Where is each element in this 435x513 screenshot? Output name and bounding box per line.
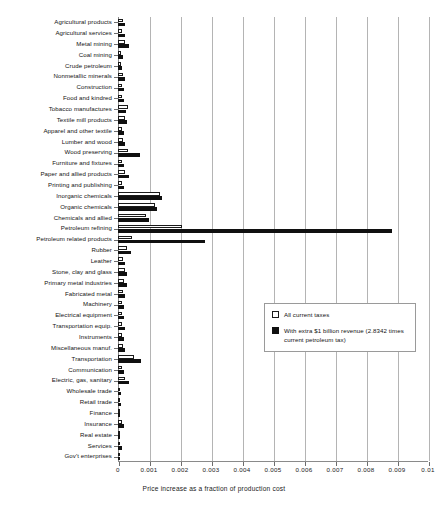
bar-all-current-taxes (118, 170, 125, 174)
x-axis-tick-label: 0.008 (357, 466, 374, 473)
category-label: Finance (0, 410, 112, 416)
bar-extra-revenue (118, 348, 125, 352)
bar-extra-revenue (118, 392, 121, 396)
bar-all-current-taxes (118, 84, 122, 88)
category-label: Fabricated metal (0, 291, 112, 297)
bar-all-current-taxes (118, 312, 122, 316)
bar-all-current-taxes (118, 214, 146, 218)
bar-all-current-taxes (118, 236, 132, 240)
x-axis-tick-label: 0.009 (388, 466, 405, 473)
category-label: Food and kindred (0, 95, 112, 101)
x-axis-tick-label: 0.005 (264, 466, 281, 473)
bar-all-current-taxes (118, 431, 120, 435)
bar-extra-revenue (118, 262, 125, 266)
category-label: Services (0, 443, 112, 449)
category-label: Retail trade (0, 399, 112, 405)
category-label: Furniture and fixtures (0, 160, 112, 166)
category-label: Textile mill products (0, 117, 112, 123)
x-axis-tick-label: 0.004 (233, 466, 250, 473)
bar-extra-revenue (118, 435, 120, 439)
bar-extra-revenue (118, 23, 125, 27)
bar-all-current-taxes (118, 355, 134, 359)
bar-all-current-taxes (118, 398, 120, 402)
bar-extra-revenue (118, 44, 129, 48)
bar-all-current-taxes (118, 409, 120, 413)
category-label: Leather (0, 258, 112, 264)
bar-all-current-taxes (118, 366, 122, 370)
category-label: Insurance (0, 421, 112, 427)
bar-extra-revenue (118, 457, 120, 461)
category-label: Agricultural products (0, 19, 112, 25)
bar-extra-revenue (118, 142, 125, 146)
category-label: Inorganic chemicals (0, 193, 112, 199)
bar-extra-revenue (118, 327, 125, 331)
bar-extra-revenue (118, 240, 205, 244)
category-label: Instruments (0, 334, 112, 340)
bar-extra-revenue (118, 283, 127, 287)
bar-all-current-taxes (118, 420, 122, 424)
x-axis-tick-label: 0.007 (326, 466, 343, 473)
category-label: Agricultural services (0, 30, 112, 36)
bar-all-current-taxes (118, 453, 120, 457)
bar-all-current-taxes (118, 192, 160, 196)
category-label: Coal mining (0, 52, 112, 58)
bar-all-current-taxes (118, 246, 127, 250)
bar-extra-revenue (118, 99, 124, 103)
bar-all-current-taxes (118, 442, 120, 446)
x-axis-tick-label: 0.01 (421, 466, 434, 473)
bar-extra-revenue (118, 316, 124, 320)
category-label: Wood preserving (0, 149, 112, 155)
bar-extra-revenue (118, 175, 129, 179)
bar-all-current-taxes (118, 29, 122, 33)
chart-legend: All current taxes With extra $1 billion … (264, 303, 416, 352)
x-axis-tick-label: 0.002 (171, 466, 188, 473)
category-label: Electrical equipment (0, 312, 112, 318)
bar-extra-revenue (118, 381, 129, 385)
bar-extra-revenue (118, 77, 125, 81)
bar-all-current-taxes (118, 181, 122, 185)
bar-extra-revenue (118, 413, 120, 417)
category-label: Construction (0, 84, 112, 90)
bar-all-current-taxes (118, 322, 122, 326)
bar-all-current-taxes (118, 160, 122, 164)
bar-all-current-taxes (118, 388, 120, 392)
category-label: Chemicals and allied (0, 215, 112, 221)
category-label: Wholesale trade (0, 388, 112, 394)
bar-all-current-taxes (118, 268, 125, 272)
bar-extra-revenue (118, 164, 124, 168)
bar-extra-revenue (118, 131, 124, 135)
category-label: Organic chemicals (0, 204, 112, 210)
legend-item-all-current-taxes: All current taxes (272, 310, 408, 319)
x-axis-title: Price increase as a fraction of producti… (0, 485, 428, 492)
x-axis-tick-label: 0.003 (202, 466, 219, 473)
legend-label-extra-revenue: With extra $1 billion revenue (2.8342 ti… (284, 326, 408, 344)
category-label: Printing and publishing (0, 182, 112, 188)
category-label: Apparel and other textile (0, 128, 112, 134)
category-label: Petroleum related products (0, 236, 112, 242)
bar-all-current-taxes (118, 73, 123, 77)
bar-extra-revenue (118, 196, 162, 200)
category-label: Gov't enterprises (0, 453, 112, 459)
x-axis-tick-label: 0.001 (140, 466, 157, 473)
bar-all-current-taxes (118, 377, 125, 381)
bar-all-current-taxes (118, 149, 128, 153)
bar-extra-revenue (118, 153, 140, 157)
bar-extra-revenue (118, 88, 124, 92)
category-label: Primary metal industries (0, 280, 112, 286)
category-axis: Agricultural productsAgricultural servic… (0, 17, 115, 462)
x-axis-tick-label: 0.006 (295, 466, 312, 473)
bar-all-current-taxes (118, 138, 123, 142)
bar-extra-revenue (118, 370, 124, 374)
bar-extra-revenue (118, 55, 123, 59)
bar-all-current-taxes (118, 127, 122, 131)
bar-extra-revenue (118, 403, 121, 407)
bar-all-current-taxes (118, 19, 123, 23)
bar-extra-revenue (118, 251, 131, 255)
category-label: Petroleum refining (0, 225, 112, 231)
category-label: Communication (0, 367, 112, 373)
bar-all-current-taxes (118, 203, 155, 207)
category-label: Stone, clay and glass (0, 269, 112, 275)
category-label: Transportation equip. (0, 323, 112, 329)
bar-extra-revenue (118, 207, 157, 211)
bar-extra-revenue (118, 110, 126, 114)
